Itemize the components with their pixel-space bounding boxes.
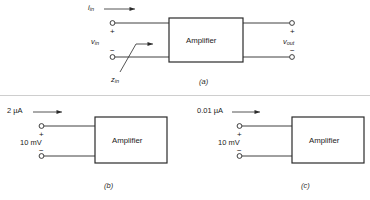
panel-c — [232, 110, 364, 163]
panel-b — [33, 110, 167, 163]
polarity-minus-b: − — [39, 147, 44, 155]
caption-b: (b) — [104, 182, 113, 190]
terminal-input-top-a — [110, 21, 115, 26]
current-arrow-a — [104, 7, 135, 11]
terminal-input-bottom-a — [110, 55, 115, 60]
polarity-minus-input-a: − — [110, 47, 115, 55]
amplifier-figure — [0, 0, 370, 200]
caption-a: (a) — [199, 78, 208, 86]
polarity-plus-input-a: + — [110, 28, 115, 36]
current-arrow-b — [33, 110, 62, 114]
terminal-output-bottom-a — [290, 55, 295, 60]
amplifier-block-label-b: Amplifier — [112, 136, 142, 145]
current-label-c: 0.01 µA — [197, 107, 223, 115]
polarity-minus-c: − — [237, 147, 242, 155]
caption-c: (c) — [301, 182, 310, 190]
impedance-label-a: zin — [111, 76, 119, 84]
terminal-input-top-b — [39, 124, 44, 129]
polarity-plus-output-a: + — [290, 28, 295, 36]
amplifier-block-label-c: Amplifier — [309, 136, 339, 145]
current-arrow-c — [232, 110, 260, 114]
polarity-minus-output-a: − — [290, 47, 295, 55]
current-label-a: iin — [88, 4, 94, 12]
amplifier-block-label-a: Amplifier — [186, 36, 216, 45]
terminal-input-top-c — [237, 124, 242, 129]
voltage-in-label-a: vin — [91, 38, 99, 46]
current-label-b: 2 µA — [7, 107, 23, 115]
terminal-output-top-a — [290, 21, 295, 26]
